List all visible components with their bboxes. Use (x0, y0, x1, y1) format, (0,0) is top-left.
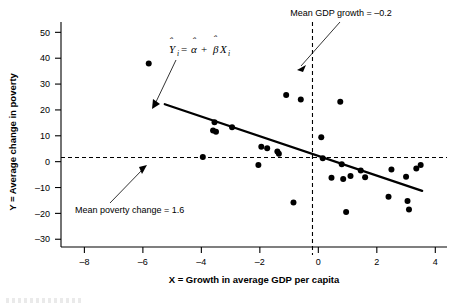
y-tick-label-neg30: –30 (35, 234, 50, 244)
arrow-head-icon (297, 65, 306, 72)
data-point (340, 176, 346, 182)
mean-gdp-growth-label: Mean GDP growth = –0.2 (290, 8, 392, 18)
equation-alpha-symbol: α (191, 43, 197, 55)
equation-y-symbol: Y (169, 43, 177, 55)
data-point (337, 99, 343, 105)
data-point (255, 162, 261, 168)
regression-line (165, 104, 422, 191)
data-point (212, 119, 218, 125)
data-point (258, 144, 264, 150)
data-point (405, 198, 411, 204)
x-tick-marks (84, 247, 435, 253)
data-point (276, 151, 282, 157)
y-tick-label-neg20: –20 (35, 209, 50, 219)
equation-y-subscript: i (177, 49, 179, 58)
equation-beta-symbol: β (212, 43, 219, 55)
data-point (339, 161, 345, 167)
equation-plus: + (201, 43, 207, 55)
data-point (290, 200, 296, 206)
data-point (348, 173, 354, 179)
figure-container: 50 40 30 20 10 0 –10 –20 –30 –8 –6 –4 –2 (0, 0, 454, 306)
x-tick-label-0: 0 (316, 257, 321, 267)
data-point (386, 194, 392, 200)
data-point (229, 124, 235, 130)
data-point (320, 155, 326, 161)
x-axis-title: X = Growth in average GDP per capita (169, 274, 340, 285)
equation-equals: = (181, 43, 187, 55)
y-tick-label-50: 50 (40, 28, 50, 38)
page-footer-artifact (6, 298, 84, 303)
x-tick-label-neg4: –4 (196, 257, 206, 267)
data-point (213, 129, 219, 135)
y-tick-label-neg10: –10 (35, 183, 50, 193)
x-tick-label-neg8: –8 (79, 257, 89, 267)
data-point (418, 162, 424, 168)
equation-x-subscript: i (228, 49, 230, 58)
x-tick-label-4: 4 (433, 257, 438, 267)
data-point (403, 174, 409, 180)
mean-gdp-growth-leader (297, 22, 340, 72)
data-point (328, 175, 334, 181)
equation-beta-hat-icon: ̂ (213, 35, 218, 37)
y-tick-label-40: 40 (40, 53, 50, 63)
regression-equation-leader (152, 60, 176, 109)
data-point (146, 60, 152, 66)
y-tick-label-30: 30 (40, 79, 50, 89)
x-tick-label-neg2: –2 (255, 257, 265, 267)
y-tick-marks (55, 32, 61, 239)
equation-alpha-hat-icon: ̂ (192, 37, 197, 39)
mean-poverty-change-leader (110, 165, 147, 203)
equation-y-hat-icon: ̂ (169, 37, 174, 39)
data-point (264, 145, 270, 151)
y-axis-title: Y = Average change in poverty (7, 72, 18, 210)
arrow-head-icon (152, 99, 160, 109)
x-tick-label-2: 2 (374, 257, 379, 267)
data-point (358, 167, 364, 173)
x-tick-label-neg6: –6 (138, 257, 148, 267)
data-points-group (146, 60, 424, 215)
equation-x-symbol: X (219, 43, 228, 55)
data-point (343, 209, 349, 215)
data-point (298, 97, 304, 103)
data-point (406, 207, 412, 213)
mean-poverty-change-label: Mean poverty change = 1.6 (75, 205, 184, 215)
regression-equation-label: Y ̂ i = α ̂ + β ̂ X i (169, 35, 230, 58)
data-point (362, 174, 368, 180)
y-tick-label-10: 10 (40, 131, 50, 141)
y-tick-label-20: 20 (40, 105, 50, 115)
data-point (388, 166, 394, 172)
arrow-head-icon (139, 165, 147, 174)
y-tick-labels: 50 40 30 20 10 0 –10 –20 –30 (35, 28, 50, 245)
y-tick-label-0: 0 (45, 157, 50, 167)
data-point (200, 154, 206, 160)
data-point (318, 134, 324, 140)
scatter-plot: 50 40 30 20 10 0 –10 –20 –30 –8 –6 –4 –2 (0, 0, 454, 306)
data-point (283, 92, 289, 98)
x-tick-labels: –8 –6 –4 –2 0 2 4 (79, 257, 437, 267)
